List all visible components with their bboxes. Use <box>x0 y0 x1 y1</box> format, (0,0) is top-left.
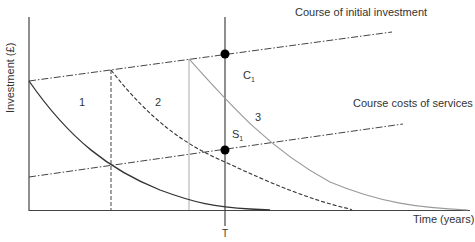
initial-investment-label: Course of initial investment <box>295 6 427 18</box>
initial-investment-line <box>29 32 392 81</box>
s1-label: S1 <box>232 128 243 142</box>
curve-2-label: 2 <box>155 96 161 108</box>
point-c1 <box>221 50 230 59</box>
x-axis-label: Time (years) <box>413 213 474 225</box>
t-label: T <box>222 228 228 239</box>
services-cost-label: Course costs of services <box>353 97 473 109</box>
services-cost-line <box>29 124 403 177</box>
curve-1-label: 1 <box>79 96 85 108</box>
c1-label: C1 <box>243 69 255 83</box>
y-axis-label: Investment (£) <box>4 43 16 113</box>
curve-1 <box>29 81 270 210</box>
point-s1 <box>221 146 230 155</box>
investment-diagram <box>0 0 475 242</box>
curve-3-label: 3 <box>255 111 261 123</box>
